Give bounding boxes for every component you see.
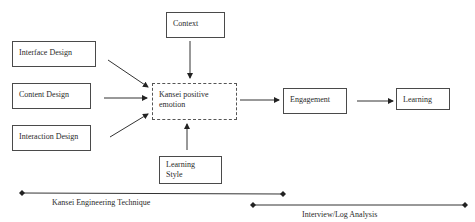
diamond-marker [462, 202, 468, 208]
interaction-design-label: Interaction Design [19, 132, 78, 141]
phase-label-interview: Interview/Log Analysis [302, 210, 377, 219]
kansei-emotion-box: Kansei positive emotion [152, 83, 237, 120]
interaction-design-box: Interaction Design [12, 125, 91, 151]
diamond-marker [250, 202, 256, 208]
phase-label-kansei: Kansei Engineering Technique [52, 198, 150, 207]
emotion-label-line1: Kansei positive [159, 90, 236, 100]
content-design-box: Content Design [12, 83, 91, 109]
diamond-marker [280, 191, 286, 197]
content-design-label: Content Design [19, 90, 69, 99]
context-box: Context [166, 12, 225, 38]
engagement-box: Engagement [283, 88, 347, 114]
arrow-interaction-to-emotion [110, 114, 148, 137]
phase-line-kansei [22, 193, 283, 194]
learning-style-box: Learning Style [159, 156, 222, 184]
learning-label: Learning [403, 95, 432, 104]
arrow-interface-to-emotion [108, 60, 148, 87]
emotion-label-line2: emotion [159, 100, 236, 110]
learning-style-line2: Style [166, 170, 221, 180]
diamond-marker [19, 190, 25, 196]
engagement-label: Engagement [290, 95, 330, 104]
learning-box: Learning [396, 88, 450, 110]
learning-style-line1: Learning [166, 160, 221, 170]
interface-design-box: Interface Design [12, 41, 96, 67]
context-label: Context [173, 19, 198, 28]
interface-design-label: Interface Design [19, 48, 72, 57]
connector-layer [0, 0, 475, 222]
